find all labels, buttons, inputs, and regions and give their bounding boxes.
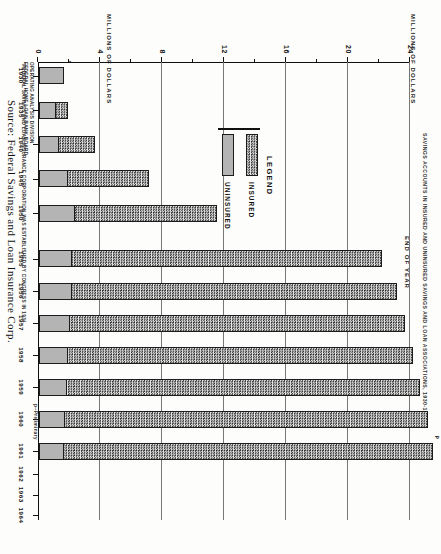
bar-uninsured-1955 <box>39 250 72 267</box>
bar-uninsured-1958 <box>39 347 68 364</box>
bar-uninsured-1960 <box>39 411 65 428</box>
value-tick-label: 4 <box>97 32 104 54</box>
value-axis-caption-left: MILLIONS OF DOLLARS <box>410 14 416 104</box>
category-tick-label: 1958 <box>18 347 25 363</box>
legend-label-insured: INSURED <box>249 182 256 218</box>
value-tick-minor <box>378 59 379 63</box>
category-tick-label: 1964 <box>18 507 25 523</box>
category-tick <box>33 291 38 292</box>
bar-annotation-1961: p <box>435 436 441 439</box>
bar-insured-1956 <box>39 283 397 300</box>
value-tick-label: 20 <box>345 32 352 54</box>
value-tick-label: 24 <box>407 32 414 54</box>
value-axis-line <box>38 62 410 63</box>
category-tick <box>33 387 38 388</box>
legend: LEGEND INSURED UNINSURED <box>196 126 272 246</box>
value-tick-label: 0 <box>35 32 42 54</box>
category-tick <box>33 213 38 214</box>
category-tick <box>33 451 38 452</box>
category-tick-label: 1961 <box>18 443 25 459</box>
footnote-division-line2: FEDERAL HOME LOAN BANK BOARD <box>22 62 28 155</box>
value-tick-label: 12 <box>221 32 228 54</box>
bar-insured-1955 <box>39 250 382 267</box>
legend-swatch-uninsured <box>222 134 234 176</box>
bar-uninsured-1930 <box>39 67 64 84</box>
bar-insured-1960 <box>39 411 428 428</box>
bar-uninsured-1961 <box>39 443 64 460</box>
bar-uninsured-1945 <box>39 170 68 187</box>
category-tick-label: 1960 <box>18 411 25 427</box>
legend-item-uninsured: UNINSURED <box>222 134 234 230</box>
bar-uninsured-1959 <box>39 379 67 396</box>
bar-uninsured-1950 <box>39 205 75 222</box>
value-tick-label: 16 <box>283 32 290 54</box>
category-tick <box>33 515 38 516</box>
figure-title: SAVINGS ACCOUNTS IN INSURED AND UNINSURE… <box>422 0 428 554</box>
value-tick <box>37 57 38 62</box>
category-tick <box>33 474 38 475</box>
value-tick-minor <box>316 59 317 63</box>
category-tick-label: 1963 <box>18 487 25 503</box>
legend-title: LEGEND <box>265 156 274 196</box>
bar-insured-1958 <box>39 347 413 364</box>
value-tick-minor <box>130 59 131 63</box>
bar-uninsured-1957 <box>39 315 70 332</box>
value-tick <box>409 57 410 62</box>
value-tick <box>285 57 286 62</box>
legend-item-insured: INSURED <box>246 134 258 218</box>
value-tick-label: 8 <box>159 32 166 54</box>
bar-annotation-1930: * <box>66 61 72 63</box>
category-tick <box>33 259 38 260</box>
footnote-division-line1: OPERATING ANALYSIS DIVISION <box>28 62 34 155</box>
value-tick <box>161 57 162 62</box>
source-note: Source: Federal Savings and Loan Insuran… <box>6 100 18 343</box>
bar-insured-1957 <box>39 315 405 332</box>
category-tick-label: 1962 <box>18 466 25 482</box>
bar-uninsured-1940 <box>39 136 59 153</box>
category-tick <box>33 179 38 180</box>
category-tick <box>33 355 38 356</box>
bar-insured-1959 <box>39 379 420 396</box>
category-tick <box>33 323 38 324</box>
footnote-preliminary: p--Preliminary <box>33 404 38 440</box>
legend-label-uninsured: UNINSURED <box>225 182 232 230</box>
footnote-division: OPERATING ANALYSIS DIVISION FEDERAL HOME… <box>22 62 34 155</box>
category-tick <box>33 495 38 496</box>
value-tick-minor <box>192 59 193 63</box>
value-tick-minor <box>254 59 255 63</box>
value-tick <box>347 57 348 62</box>
legend-swatch-insured <box>246 134 258 176</box>
bar-uninsured-1935 <box>39 102 56 119</box>
legend-bracket <box>218 128 260 130</box>
bar-uninsured-1956 <box>39 283 72 300</box>
bar-insured-1961 <box>39 443 433 460</box>
category-tick-label: 1959 <box>18 379 25 395</box>
value-tick <box>99 57 100 62</box>
value-tick <box>223 57 224 62</box>
